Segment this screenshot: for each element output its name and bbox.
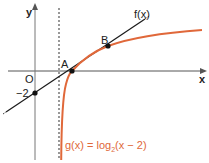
origin-label: O bbox=[25, 74, 34, 85]
g-label-text: g(x) = log bbox=[65, 139, 111, 151]
g-label: g(x) = log2(x − 2) bbox=[65, 140, 147, 153]
y-axis-label: y bbox=[26, 7, 32, 18]
g-label-arg: (x − 2) bbox=[115, 139, 146, 151]
y-intercept-label: −2 bbox=[16, 88, 29, 99]
point-a-label: A bbox=[61, 59, 68, 70]
point-a bbox=[69, 68, 74, 73]
f-line-dotted-start bbox=[3, 112, 6, 114]
point-y-intercept bbox=[32, 90, 37, 95]
y-axis-arrow bbox=[32, 3, 38, 10]
point-b-label: B bbox=[101, 35, 108, 46]
f-label: f(x) bbox=[134, 9, 150, 20]
x-axis-label: x bbox=[199, 74, 205, 85]
